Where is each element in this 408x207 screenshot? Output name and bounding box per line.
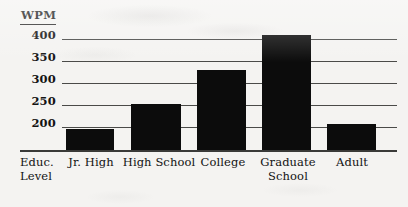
x-label-college: College <box>194 156 252 170</box>
y-tick-label-400: 400 <box>20 28 56 42</box>
bar-college <box>197 70 246 150</box>
bar-high-school <box>131 104 181 150</box>
x-label-adult: Adult <box>324 156 380 170</box>
x-axis-baseline <box>20 150 397 152</box>
y-tick-label-200: 200 <box>20 116 56 130</box>
y-axis-title: WPM <box>21 8 56 22</box>
bar-adult <box>327 124 376 150</box>
y-tick-label-350: 350 <box>20 50 56 64</box>
bar-chart: WPM 400 350 300 250 200 Educ. Level Jr. … <box>0 0 408 207</box>
bar-graduate-school <box>262 35 311 150</box>
x-axis-title-line2: Level <box>16 170 70 184</box>
bar-jr-high <box>66 129 114 150</box>
y-tick-label-250: 250 <box>20 94 56 108</box>
x-label-graduate-school: Graduate School <box>256 156 320 183</box>
gridline-400 <box>62 39 397 40</box>
x-label-jr-high: Jr. High <box>62 156 120 170</box>
gridline-350 <box>62 61 397 62</box>
x-label-high-school: High School <box>122 156 196 170</box>
y-axis-title-underline <box>20 24 56 25</box>
y-tick-label-300: 300 <box>20 72 56 86</box>
